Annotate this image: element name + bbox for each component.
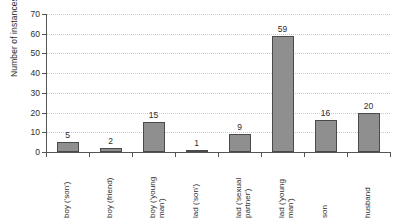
x-category-label: lad ('young man') bbox=[278, 156, 295, 218]
bar[interactable] bbox=[143, 122, 165, 152]
x-tick-mark bbox=[390, 152, 391, 157]
bar[interactable] bbox=[315, 120, 337, 152]
bar-value-label: 16 bbox=[321, 109, 330, 118]
x-tick-mark bbox=[132, 152, 133, 157]
y-tick-label: 50 bbox=[31, 49, 40, 58]
x-tick-mark bbox=[347, 152, 348, 157]
bar[interactable] bbox=[358, 113, 380, 152]
bar-value-label: 9 bbox=[237, 123, 242, 132]
bar-value-label: 1 bbox=[194, 139, 199, 148]
bar-value-label: 20 bbox=[364, 102, 373, 111]
gridline bbox=[47, 73, 390, 74]
bar[interactable] bbox=[57, 142, 79, 152]
bar-value-label: 59 bbox=[278, 25, 287, 34]
y-tick-label: 60 bbox=[31, 29, 40, 38]
gridline bbox=[47, 93, 390, 94]
y-tick-label: 40 bbox=[31, 69, 40, 78]
x-category-label: boy (friend) bbox=[106, 156, 115, 218]
bar-value-label: 2 bbox=[108, 137, 113, 146]
y-tick-mark bbox=[42, 93, 46, 94]
plot-area: 010203040506070 521519591620 bbox=[46, 14, 390, 152]
x-tick-mark bbox=[218, 152, 219, 157]
y-tick-mark bbox=[42, 73, 46, 74]
x-tick-mark bbox=[46, 152, 47, 157]
bar-chart: Number of instances 010203040506070 5215… bbox=[0, 0, 404, 221]
bar[interactable] bbox=[100, 148, 122, 152]
bar-value-label: 15 bbox=[149, 111, 158, 120]
y-tick-label: 70 bbox=[31, 10, 40, 19]
y-tick-label: 0 bbox=[35, 148, 40, 157]
x-tick-mark bbox=[175, 152, 176, 157]
y-tick-mark bbox=[42, 132, 46, 133]
x-category-label: husband bbox=[364, 156, 373, 218]
bar[interactable] bbox=[272, 36, 294, 152]
bar[interactable] bbox=[186, 150, 208, 152]
gridline bbox=[47, 113, 390, 114]
x-category-label: lad ('sexual partner') bbox=[235, 156, 252, 218]
gridline bbox=[47, 53, 390, 54]
x-category-label: son bbox=[321, 156, 330, 218]
x-category-label: boy ('young man') bbox=[149, 156, 166, 218]
gridline bbox=[47, 34, 390, 35]
gridline bbox=[47, 14, 390, 15]
y-tick-mark bbox=[42, 14, 46, 15]
x-category-label: boy ('son') bbox=[63, 156, 72, 218]
x-tick-mark bbox=[261, 152, 262, 157]
y-tick-label: 30 bbox=[31, 89, 40, 98]
y-tick-label: 10 bbox=[31, 128, 40, 137]
x-tick-mark bbox=[304, 152, 305, 157]
y-axis-title: Number of instances bbox=[9, 0, 23, 97]
bar[interactable] bbox=[229, 134, 251, 152]
gridline bbox=[47, 132, 390, 133]
bar-value-label: 5 bbox=[65, 131, 70, 140]
y-tick-mark bbox=[42, 113, 46, 114]
y-tick-mark bbox=[42, 34, 46, 35]
x-tick-mark bbox=[89, 152, 90, 157]
y-tick-mark bbox=[42, 53, 46, 54]
x-category-label: lad ('son') bbox=[192, 156, 201, 218]
y-tick-label: 20 bbox=[31, 108, 40, 117]
